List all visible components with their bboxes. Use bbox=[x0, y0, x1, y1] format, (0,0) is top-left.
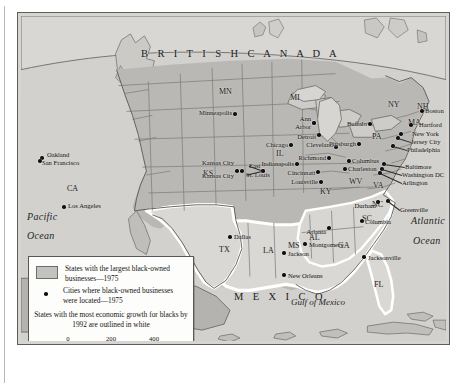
state-label-il: IL bbox=[276, 150, 284, 158]
state-label-pa: PA bbox=[372, 133, 382, 141]
map-canvas: B R I T I S H C A N A D AM E X I C OPaci… bbox=[21, 16, 446, 341]
city-label-buffalo: Buffalo bbox=[347, 121, 367, 128]
state-label-mn: MN bbox=[219, 88, 232, 96]
city-dot-jackson bbox=[282, 251, 285, 254]
city-dot-cincinnati bbox=[316, 170, 319, 173]
label-gulf-of-mexico: Gulf of Mexico bbox=[291, 298, 345, 307]
state-label-va: VA bbox=[373, 182, 384, 190]
city-dot-detroit bbox=[317, 133, 320, 136]
city-dot-columbia bbox=[360, 219, 363, 222]
city-label-kansas-city: Kansas City bbox=[202, 173, 234, 180]
label-atlantic-ocean-line1: Atlantic bbox=[411, 216, 445, 226]
city-label-new-orleans: New Orleans bbox=[288, 273, 323, 280]
city-label-arbor: Arbor bbox=[295, 124, 311, 131]
city-label-boston: Boston bbox=[425, 108, 444, 115]
state-label-tx: TX bbox=[219, 246, 230, 254]
city-dot-columbus bbox=[347, 159, 350, 162]
city-dot-dallas bbox=[228, 235, 231, 238]
city-dot-los-angeles bbox=[62, 205, 65, 208]
state-label-la: LA bbox=[263, 247, 274, 255]
label-pacific-ocean-line2: Ocean bbox=[27, 231, 55, 241]
city-label-greenville: Greenville bbox=[400, 207, 428, 214]
state-label-ms: MS bbox=[288, 242, 300, 250]
legend-swatch-city-dot bbox=[36, 292, 56, 296]
state-label-ny: NY bbox=[388, 101, 400, 109]
city-dot-louisville bbox=[319, 180, 322, 183]
city-label-columbia: Columbia bbox=[365, 219, 391, 226]
scale-tick-400: 400 bbox=[149, 335, 159, 341]
city-label-detroit: Detroit bbox=[297, 134, 316, 141]
city-dot-kansas-city bbox=[240, 169, 243, 172]
label-british-canada: B R I T I S H C A N A D A bbox=[141, 49, 340, 60]
state-label-ky: KY bbox=[320, 188, 332, 196]
city-dot-atlanta bbox=[327, 226, 330, 229]
city-dot-arbor bbox=[312, 121, 315, 124]
city-dot-indianapolis bbox=[295, 162, 298, 165]
city-label-hartford: Hartford bbox=[419, 122, 442, 129]
city-dot-chicago bbox=[289, 143, 292, 146]
figure-caption bbox=[20, 366, 320, 376]
city-label-baltimore: Baltimore bbox=[405, 164, 431, 171]
map-legend: States with the largest black-owned busi… bbox=[28, 256, 194, 341]
city-dot-durham bbox=[376, 200, 379, 203]
city-label-atlanta: Atlanta bbox=[307, 229, 326, 236]
city-dot-new-york bbox=[399, 132, 402, 135]
legend-item-shaded-states: States with the largest black-owned busi… bbox=[29, 264, 193, 283]
scale-tick-0: 0 bbox=[66, 335, 69, 341]
label-pacific-ocean-line1: Pacific bbox=[27, 212, 57, 222]
city-label-charleston: Charleston bbox=[348, 166, 377, 173]
city-label-louisville: Louisville bbox=[291, 179, 318, 186]
map-frame: B R I T I S H C A N A D AM E X I C OPaci… bbox=[17, 12, 450, 345]
city-dot-jacksonville bbox=[362, 255, 365, 258]
legend-item-cities: Cities where black-owned businesses were… bbox=[29, 286, 193, 305]
scale-tick-labels: 0 200 400 bbox=[68, 335, 154, 341]
city-label-philadelphia: Philadelphia bbox=[407, 147, 440, 154]
city-label-arlington: Arlington bbox=[402, 180, 428, 187]
city-label-minneapolis: Minneapolis bbox=[199, 110, 232, 117]
city-dot-richmond bbox=[327, 156, 330, 159]
city-label-richmond: Richmond bbox=[299, 155, 326, 162]
map-scale-bar: 0 200 400 Miles bbox=[29, 335, 193, 341]
city-label-kansas-city: Kansas City bbox=[202, 160, 234, 167]
city-dot-new-orleans bbox=[282, 273, 285, 276]
city-dot-montgomery bbox=[303, 242, 306, 245]
city-label-durham: Durham bbox=[354, 203, 376, 210]
city-label-pittsburgh: Pittsburgh bbox=[329, 141, 356, 148]
city-label-new-york: New York bbox=[412, 131, 439, 138]
legend-label-cities: Cities where black-owned businesses were… bbox=[63, 286, 186, 305]
city-label-oakland: Oakland bbox=[47, 152, 69, 159]
city-dot-boston bbox=[420, 109, 423, 112]
city-label-ann: Ann bbox=[300, 116, 311, 123]
city-label-chicago: Chicago bbox=[266, 142, 288, 149]
scale-tick-200: 200 bbox=[106, 335, 116, 341]
page-margin-rule bbox=[4, 6, 5, 383]
city-dot-minneapolis bbox=[233, 112, 236, 115]
city-label-jacksonville: Jacksonville bbox=[368, 255, 401, 262]
state-label-fl: FL bbox=[374, 281, 383, 289]
state-label-mi: MI bbox=[290, 94, 300, 102]
legend-label-shaded: States with the largest black-owned busi… bbox=[65, 264, 186, 283]
city-label-dallas: Dallas bbox=[234, 234, 251, 241]
city-label-jackson: Jackson bbox=[288, 251, 309, 258]
city-label-indianapolis: Indianapolis bbox=[261, 161, 294, 168]
city-dot-buffalo bbox=[368, 122, 371, 125]
state-label-wv: WV bbox=[349, 178, 362, 186]
label-atlantic-ocean-line2: Ocean bbox=[413, 236, 441, 246]
city-label-washington-dc: Washington DC bbox=[402, 172, 444, 179]
city-label-columbus: Columbus bbox=[352, 158, 379, 165]
legend-note-growth: States with the most economic growth for… bbox=[29, 310, 193, 329]
city-label-los-angeles: Los Angeles bbox=[68, 203, 101, 210]
city-label-montgomery: Montgomery bbox=[309, 242, 343, 249]
city-dot-pittsburgh bbox=[357, 142, 360, 145]
city-label-san-francisco: San Francisco bbox=[42, 160, 79, 167]
city-dot-charleston bbox=[343, 167, 346, 170]
state-label-ca: CA bbox=[67, 185, 78, 193]
city-label-cincinnati: Cincinnati bbox=[288, 170, 315, 177]
city-dot-kansas-city bbox=[235, 169, 238, 172]
legend-swatch-shaded bbox=[36, 266, 58, 279]
city-label-jersey-city: Jersey City bbox=[411, 139, 441, 146]
city-dot-hartford bbox=[409, 123, 412, 126]
